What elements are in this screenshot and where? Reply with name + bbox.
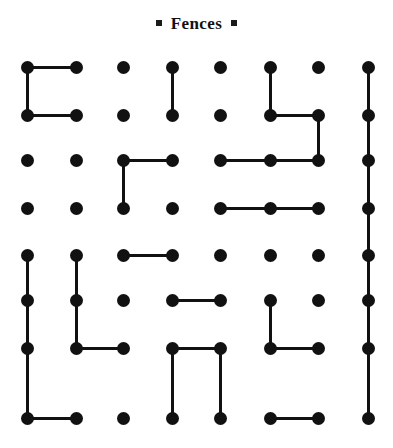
grid-dot[interactable] [264,342,277,355]
grid-dot[interactable] [70,412,83,425]
grid-dot[interactable] [21,61,34,74]
fence-edge-horizontal[interactable] [270,417,318,420]
grid-dot[interactable] [362,154,375,167]
grid-dot[interactable] [312,154,325,167]
fence-edge-vertical[interactable] [26,348,29,418]
fences-dot-grid[interactable] [0,0,393,448]
grid-dot[interactable] [117,342,130,355]
fence-edge-horizontal[interactable] [270,159,318,162]
fence-edge-vertical[interactable] [367,348,370,418]
fence-edge-vertical[interactable] [367,300,370,348]
grid-dot[interactable] [214,61,227,74]
fence-edge-horizontal[interactable] [172,347,220,350]
grid-dot[interactable] [166,342,179,355]
grid-dot[interactable] [21,412,34,425]
grid-dot[interactable] [264,294,277,307]
grid-dot[interactable] [312,109,325,122]
grid-dot[interactable] [21,294,34,307]
grid-dot[interactable] [166,249,179,262]
grid-dot[interactable] [214,249,227,262]
grid-dot[interactable] [166,294,179,307]
grid-dot[interactable] [312,61,325,74]
grid-dot[interactable] [70,202,83,215]
fence-edge-horizontal[interactable] [27,114,76,117]
grid-dot[interactable] [21,202,34,215]
grid-dot[interactable] [70,294,83,307]
fence-edge-horizontal[interactable] [270,347,318,350]
grid-dot[interactable] [362,342,375,355]
grid-dot[interactable] [117,202,130,215]
grid-dot[interactable] [362,202,375,215]
grid-dot[interactable] [264,412,277,425]
grid-dot[interactable] [264,202,277,215]
fence-edge-vertical[interactable] [367,67,370,115]
grid-dot[interactable] [166,202,179,215]
grid-dot[interactable] [214,342,227,355]
fence-edge-horizontal[interactable] [270,207,318,210]
grid-dot[interactable] [70,109,83,122]
fence-edge-horizontal[interactable] [27,417,76,420]
grid-dot[interactable] [117,412,130,425]
grid-dot[interactable] [362,249,375,262]
grid-dot[interactable] [117,294,130,307]
fence-edge-vertical[interactable] [171,67,174,115]
fence-edge-vertical[interactable] [367,208,370,255]
grid-dot[interactable] [312,342,325,355]
grid-dot[interactable] [362,109,375,122]
grid-dot[interactable] [312,294,325,307]
fence-edge-vertical[interactable] [75,300,78,348]
grid-dot[interactable] [312,412,325,425]
grid-dot[interactable] [312,249,325,262]
puzzle-page: Fences [0,0,393,448]
grid-dot[interactable] [362,294,375,307]
grid-dot[interactable] [166,109,179,122]
grid-dot[interactable] [117,249,130,262]
fence-edge-horizontal[interactable] [27,66,76,69]
grid-dot[interactable] [264,154,277,167]
grid-dot[interactable] [214,412,227,425]
fence-edge-vertical[interactable] [122,160,125,208]
fence-edge-horizontal[interactable] [172,299,220,302]
grid-dot[interactable] [70,249,83,262]
grid-dot[interactable] [214,294,227,307]
grid-dot[interactable] [264,109,277,122]
grid-dot[interactable] [70,342,83,355]
fence-edge-horizontal[interactable] [123,159,172,162]
grid-dot[interactable] [21,249,34,262]
fence-edge-horizontal[interactable] [123,254,172,257]
grid-dot[interactable] [117,109,130,122]
grid-dot[interactable] [166,61,179,74]
fence-edge-horizontal[interactable] [270,114,318,117]
grid-dot[interactable] [214,109,227,122]
fence-edge-vertical[interactable] [26,300,29,348]
fence-edge-horizontal[interactable] [220,159,270,162]
grid-dot[interactable] [117,61,130,74]
grid-dot[interactable] [312,202,325,215]
fence-edge-horizontal[interactable] [220,207,270,210]
fence-edge-vertical[interactable] [171,348,174,418]
fence-edge-vertical[interactable] [219,348,222,418]
fence-edge-vertical[interactable] [367,160,370,208]
fence-edge-vertical[interactable] [26,67,29,115]
grid-dot[interactable] [264,249,277,262]
grid-dot[interactable] [21,154,34,167]
grid-dot[interactable] [70,154,83,167]
grid-dot[interactable] [264,61,277,74]
grid-dot[interactable] [21,342,34,355]
grid-dot[interactable] [166,412,179,425]
grid-dot[interactable] [21,109,34,122]
fence-edge-horizontal[interactable] [76,347,123,350]
grid-dot[interactable] [166,154,179,167]
grid-dot[interactable] [70,61,83,74]
grid-dot[interactable] [117,154,130,167]
grid-dot[interactable] [214,202,227,215]
fence-edge-vertical[interactable] [269,300,272,348]
fence-edge-vertical[interactable] [269,67,272,115]
grid-dot[interactable] [362,412,375,425]
grid-dot[interactable] [214,154,227,167]
grid-dot[interactable] [362,61,375,74]
